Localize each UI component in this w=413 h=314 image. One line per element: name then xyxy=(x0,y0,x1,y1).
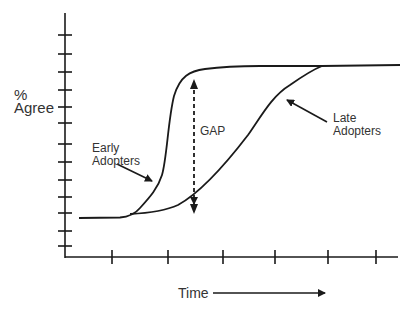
y-axis xyxy=(58,13,72,258)
gap-arrow-head-top xyxy=(190,79,198,89)
early-adopters-label-line1: Early xyxy=(92,141,119,155)
plateau-line xyxy=(322,65,400,66)
y-axis-label-agree: Agree xyxy=(14,99,54,116)
x-axis xyxy=(65,250,398,264)
adoption-curve-diagram: % Agree Early Adopters Late Adopters GAP… xyxy=(0,0,413,314)
gap-label: GAP xyxy=(200,124,225,138)
gap-arrow-head-bottom xyxy=(190,204,198,214)
late-adopters-curve xyxy=(130,66,322,214)
x-axis-label: Time xyxy=(178,285,209,301)
early-adopters-label-line2: Adopters xyxy=(92,154,140,168)
late-adopters-label-line1: Late xyxy=(333,111,357,125)
late-adopters-label-line2: Adopters xyxy=(333,124,381,138)
late-adopters-pointer xyxy=(287,100,327,122)
